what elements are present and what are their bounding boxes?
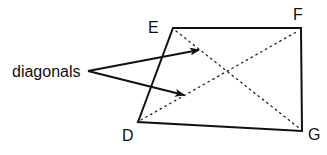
- vertex-label-f: F: [293, 6, 303, 23]
- vertex-label-g: G: [308, 126, 320, 143]
- quadrilateral-diagram: diagonals E F D G: [0, 0, 327, 155]
- diagonal-eg: [176, 31, 299, 128]
- vertex-label-e: E: [148, 19, 159, 36]
- vertex-label-d: D: [122, 127, 134, 144]
- annotation-label: diagonals: [12, 63, 81, 80]
- quadrilateral-outline: [138, 28, 302, 131]
- arrow-to-diagonal-eg: [88, 50, 199, 71]
- arrow-to-diagonal-df: [88, 71, 184, 95]
- diagonal-df: [141, 31, 298, 120]
